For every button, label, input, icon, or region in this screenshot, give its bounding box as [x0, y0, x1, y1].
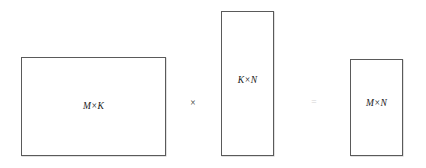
matrix-label-left-operand: M×K: [22, 102, 165, 112]
matrix-box-left-operand: M×K: [21, 57, 166, 156]
equals-sign-icon: =: [305, 98, 323, 108]
matrix-multiplication-diagram: M×K × K×N = M×N: [0, 0, 426, 168]
matrix-label-result: M×N: [351, 99, 402, 109]
matrix-label-right-operand: K×N: [222, 76, 273, 86]
matrix-box-right-operand: K×N: [221, 11, 274, 156]
matrix-box-result: M×N: [350, 59, 403, 156]
multiplication-sign-icon: ×: [185, 99, 201, 109]
